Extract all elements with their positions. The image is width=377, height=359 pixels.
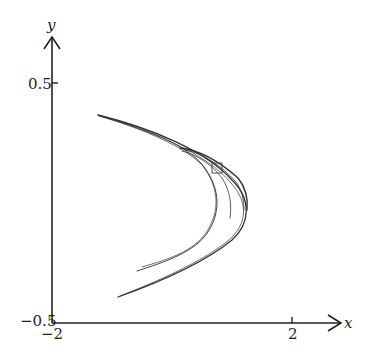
attractor-plot: [0, 0, 377, 359]
attractor-curves: [98, 115, 247, 297]
y-tick-label-max: 0.5: [28, 77, 52, 92]
inner-fold: [180, 148, 247, 210]
inner-branch: [98, 115, 217, 271]
x-tick-label-max: 2: [288, 327, 298, 342]
y-axis-label: y: [47, 18, 55, 33]
x-tick-label-min: −2: [41, 327, 63, 342]
x-axis-label: x: [344, 316, 352, 331]
